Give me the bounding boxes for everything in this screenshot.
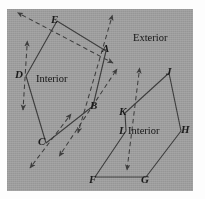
point-label-K: K <box>119 106 126 117</box>
region-label-interior-left: Interior <box>36 74 68 85</box>
arrow-through-E <box>22 15 113 63</box>
point-label-D: D <box>15 69 23 80</box>
region-label-interior-right: Interior <box>128 126 160 137</box>
point-label-L: L <box>119 125 126 136</box>
diagram-vector-layer <box>0 0 205 199</box>
arrow-through-K-L <box>127 73 139 170</box>
diagram-canvas: Interior Exterior Interior E A D J B K H… <box>0 0 205 199</box>
region-label-exterior: Exterior <box>133 33 167 44</box>
point-label-H: H <box>181 124 190 135</box>
point-label-C: C <box>38 136 45 147</box>
point-label-A: A <box>102 43 109 54</box>
point-label-G: G <box>141 174 149 185</box>
point-label-E: E <box>51 14 58 25</box>
point-label-J: J <box>166 66 172 77</box>
point-label-B: B <box>90 100 97 111</box>
arrow-through-C <box>30 118 68 168</box>
point-label-F: F <box>89 174 96 185</box>
